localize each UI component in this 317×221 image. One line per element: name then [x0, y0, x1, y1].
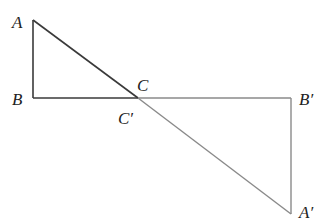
label-b-prime: B′ [299, 90, 313, 109]
label-c: C [137, 76, 149, 95]
segment-c-prime-a-prime [138, 98, 291, 214]
segment-ac [33, 20, 138, 98]
label-a: A [11, 13, 23, 32]
label-b: B [12, 90, 23, 109]
label-a-prime: A′ [298, 203, 313, 221]
triangle-a-prime-b-prime-c-prime [138, 98, 291, 214]
triangle-abc [33, 20, 138, 98]
geometry-diagram: A B C C′ B′ A′ [0, 0, 317, 221]
label-c-prime: C′ [118, 109, 133, 128]
